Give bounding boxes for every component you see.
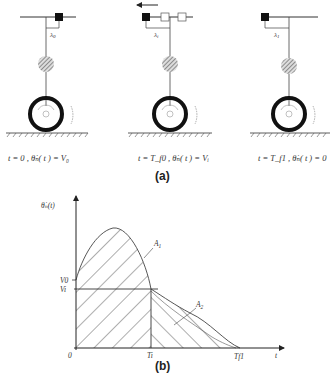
rotation-arrow-icon bbox=[195, 106, 197, 124]
black-mass-icon bbox=[55, 13, 63, 21]
a2-label: A2 bbox=[195, 300, 204, 310]
lambda-bracket bbox=[146, 21, 170, 28]
ground-hatch bbox=[7, 133, 88, 137]
ti-label: Ti bbox=[147, 351, 153, 360]
a1-leader bbox=[144, 248, 153, 258]
hatched-ball-icon bbox=[162, 56, 178, 72]
a1-label: A1 bbox=[153, 239, 162, 249]
state-1-caption: t = 0 , θ̇ₙ( t ) = V₀ bbox=[8, 153, 69, 163]
hollow-mass-icon bbox=[178, 13, 186, 21]
lambda-i-label: λi bbox=[153, 31, 159, 39]
y-axis-label: θ̇ₙ(t) bbox=[41, 201, 55, 210]
tf1-label: Tf1 bbox=[234, 352, 244, 361]
state-2-diagram: λi bbox=[128, 5, 212, 137]
ground-hatch bbox=[129, 133, 210, 137]
x-axis-label: t bbox=[275, 351, 278, 360]
state-3-diagram: λ1 bbox=[250, 13, 330, 137]
area-a1 bbox=[76, 228, 151, 348]
wheel-hub bbox=[167, 111, 173, 117]
black-mass-icon bbox=[142, 13, 150, 21]
origin-label: 0 bbox=[68, 351, 72, 360]
hatched-ball-icon bbox=[38, 56, 54, 72]
lambda-0-label: λ0 bbox=[49, 31, 56, 39]
black-mass-icon bbox=[261, 13, 269, 21]
wheel-hub bbox=[43, 111, 49, 117]
panel-a-label: (a) bbox=[155, 169, 170, 183]
state-3-caption: t = T_f1 , θ̇ₙ( t ) = 0 bbox=[258, 153, 327, 163]
lambda-bracket bbox=[46, 21, 59, 28]
panel-b-label: (b) bbox=[155, 359, 170, 373]
v0-label: V0 bbox=[60, 276, 69, 285]
state-2-caption: t = T_f0 , θ̇ₙ( t ) = Vᵢ bbox=[138, 153, 209, 163]
wheel-hub bbox=[286, 111, 292, 117]
rotation-arrow-icon bbox=[313, 106, 315, 124]
lambda-bracket bbox=[265, 21, 289, 28]
lambda-1-label: λ1 bbox=[273, 31, 280, 39]
hollow-mass-icon bbox=[161, 13, 169, 21]
hatched-ball-icon bbox=[281, 58, 297, 74]
state-1-diagram: λ0 bbox=[6, 13, 88, 137]
rotation-arrow-icon bbox=[71, 106, 73, 124]
ground-hatch bbox=[251, 133, 326, 137]
figure-canvas: λ0 λi bbox=[0, 0, 333, 377]
velocity-chart: θ̇ₙ(t) V0 Vi 0 Ti Tf1 t A1 A2 bbox=[41, 196, 284, 361]
vi-label: Vi bbox=[60, 285, 66, 294]
